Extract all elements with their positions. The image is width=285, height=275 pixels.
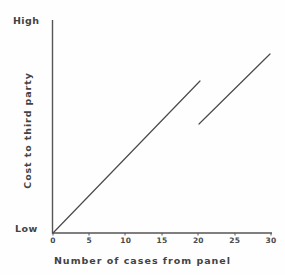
x-tick-label: 0 [50, 236, 55, 245]
cost-curve-segment-1 [53, 81, 200, 233]
y-axis-low-label: Low [15, 223, 38, 234]
x-tick-label: 5 [87, 236, 92, 245]
chart-figure: High Low Cost to third party Number of c… [0, 0, 285, 275]
x-tick-label: 25 [229, 236, 240, 245]
cost-curve-segment-2 [199, 54, 270, 124]
x-tick-label: 10 [120, 236, 131, 245]
y-axis-high-label: High [13, 15, 39, 26]
x-tick-label: 20 [193, 236, 204, 245]
chart-plot-area [0, 0, 285, 275]
y-axis-title: Cost to third party [22, 71, 33, 191]
x-axis-title: Number of cases from panel [0, 255, 285, 266]
x-tick-label: 30 [266, 236, 277, 245]
x-tick-label: 15 [157, 236, 168, 245]
